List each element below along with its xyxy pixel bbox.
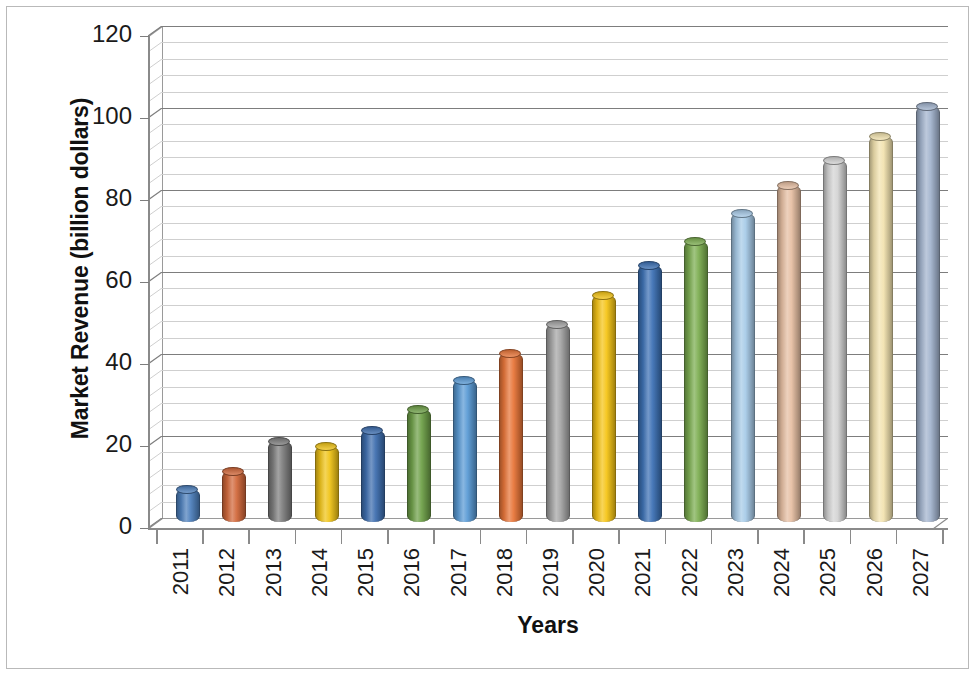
gridline-minor: [162, 75, 948, 76]
bar-body: [315, 446, 339, 522]
x-axis-tick: [526, 530, 528, 544]
gridline-depth-connector: [148, 338, 163, 349]
bar-2018[interactable]: [499, 353, 521, 523]
gridline-depth-connector: [148, 354, 163, 365]
gridline-depth-connector: [148, 420, 163, 431]
x-axis-tick: [665, 530, 667, 544]
bar-top-cap: [407, 405, 429, 414]
gridline-depth-connector: [148, 403, 163, 414]
bar-body: [916, 106, 940, 523]
bar-2011[interactable]: [176, 489, 198, 522]
bar-2023[interactable]: [731, 213, 753, 523]
bar-top-cap: [546, 320, 568, 329]
x-axis-tick: [387, 530, 389, 544]
y-axis-tick: [140, 364, 149, 366]
gridline-depth-connector: [148, 305, 163, 316]
bar-2021[interactable]: [638, 265, 660, 523]
gridline-depth-connector: [148, 124, 163, 135]
x-axis-tick: [896, 530, 898, 544]
bar-2016[interactable]: [407, 409, 429, 523]
gridline-depth-connector: [148, 288, 163, 299]
bar-body: [823, 160, 847, 522]
bar-body: [222, 471, 246, 523]
bar-body: [268, 441, 292, 522]
x-axis-tick: [156, 530, 158, 544]
bar-2025[interactable]: [823, 160, 845, 522]
y-axis-tick: [140, 282, 149, 284]
gridline-depth-connector: [148, 141, 163, 152]
y-axis-tick-label: 0: [72, 512, 132, 540]
bar-body: [407, 409, 431, 523]
gridline-depth-connector: [148, 239, 163, 250]
gridline-depth-connector: [148, 223, 163, 234]
bar-2015[interactable]: [361, 430, 383, 523]
gridline-depth-connector: [148, 485, 163, 496]
gridline-minor: [162, 124, 948, 125]
gridline-minor: [162, 92, 948, 93]
x-axis-tick: [711, 530, 713, 544]
gridline-depth-connector: [148, 59, 163, 70]
bar-top-cap: [916, 102, 938, 111]
gridline-depth-connector: [148, 321, 163, 332]
y-axis-tick: [140, 446, 149, 448]
gridline-depth-connector: [148, 256, 163, 267]
gridline-depth-connector: [148, 108, 163, 119]
x-axis-tick: [480, 530, 482, 544]
bar-body: [731, 213, 755, 523]
gridline-depth-connector: [148, 370, 163, 381]
x-axis-tick: [572, 530, 574, 544]
gridline-depth-connector: [148, 190, 163, 201]
bar-2012[interactable]: [222, 471, 244, 523]
bar-2024[interactable]: [777, 185, 799, 523]
chart-plot-area: 020406080100120 201120122013201420152016…: [0, 0, 977, 680]
bar-body: [499, 353, 523, 523]
bar-top-cap: [361, 426, 383, 435]
gridline-depth-connector: [148, 92, 163, 103]
gridline-minor: [162, 59, 948, 60]
bar-body: [361, 430, 385, 523]
bar-top-cap: [222, 467, 244, 476]
bar-top-cap: [777, 181, 799, 190]
bar-body: [546, 324, 570, 522]
bar-2026[interactable]: [869, 136, 891, 522]
gridline-minor: [162, 141, 948, 142]
gridline-depth-connector: [148, 272, 163, 283]
x-axis-tick: [248, 530, 250, 544]
x-axis-tick: [803, 530, 805, 544]
bar-2019[interactable]: [546, 324, 568, 522]
x-axis-tick: [202, 530, 204, 544]
bar-body: [869, 136, 893, 522]
gridline-major: [162, 26, 948, 27]
bar-2022[interactable]: [684, 241, 706, 522]
bar-body: [453, 380, 477, 522]
y-axis-tick-label: 120: [72, 20, 132, 48]
bar-body: [684, 241, 708, 522]
chart-page: 020406080100120 201120122013201420152016…: [0, 0, 977, 680]
gridline-depth-connector: [148, 387, 163, 398]
bar-top-cap: [315, 442, 337, 451]
bar-2017[interactable]: [453, 380, 475, 522]
bar-top-cap: [499, 349, 521, 358]
bar-2013[interactable]: [268, 441, 290, 522]
y-axis-tick: [140, 118, 149, 120]
x-axis-tick: [757, 530, 759, 544]
bar-2020[interactable]: [592, 295, 614, 522]
gridline-minor: [162, 42, 948, 43]
bar-top-cap: [638, 261, 660, 270]
bar-body: [176, 489, 200, 522]
gridline-depth-connector: [148, 75, 163, 86]
bar-body: [638, 265, 662, 523]
y-axis-tick: [140, 36, 149, 38]
bar-2027[interactable]: [916, 106, 938, 523]
bar-body: [777, 185, 801, 523]
gridline-depth-connector: [148, 157, 163, 168]
gridline-depth-connector: [148, 436, 163, 447]
gridline-depth-connector: [148, 174, 163, 185]
gridline-depth-connector: [148, 26, 163, 37]
bar-2014[interactable]: [315, 446, 337, 522]
y-axis-tick: [140, 200, 149, 202]
x-axis-tick: [433, 530, 435, 544]
x-axis-title: Years: [148, 612, 948, 639]
gridline-depth-connector: [148, 502, 163, 513]
gridline-depth-connector: [148, 469, 163, 480]
